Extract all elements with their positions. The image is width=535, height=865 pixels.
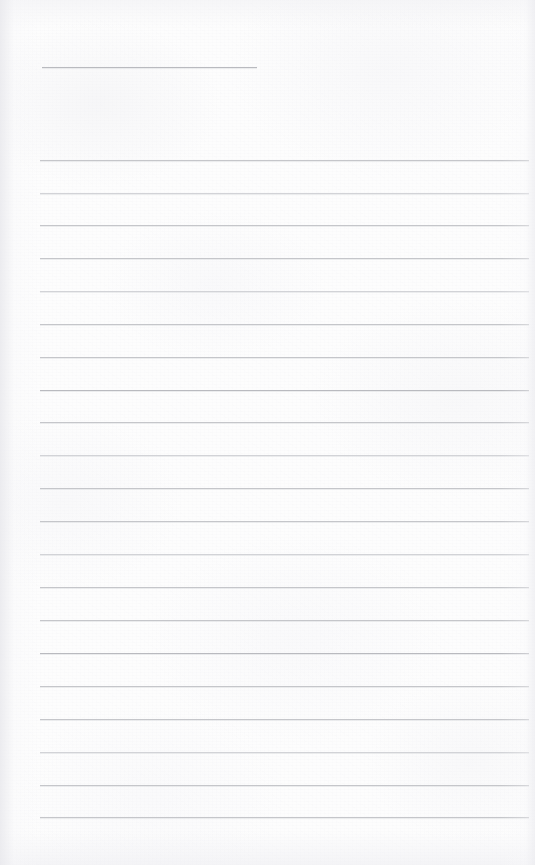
ruled-line-12	[40, 521, 529, 522]
paper-grain-overlay	[0, 0, 535, 865]
ruled-line-6	[40, 324, 529, 325]
ruled-line-17	[40, 686, 529, 687]
ruled-line-10	[40, 455, 529, 456]
ruled-line-21	[40, 817, 529, 818]
ruled-line-19	[40, 752, 529, 753]
page-edge-vignette	[0, 0, 535, 865]
ruled-line-14	[40, 587, 529, 588]
ruled-line-20	[40, 785, 529, 786]
ruled-line-18	[40, 719, 529, 720]
ruled-line-15	[40, 620, 529, 621]
notepad-page	[0, 0, 535, 865]
ruled-line-4	[40, 258, 529, 259]
ruled-line-3	[40, 225, 529, 226]
ruled-line-11	[40, 488, 529, 489]
ruled-line-13	[40, 554, 529, 555]
ruled-line-16	[40, 653, 529, 654]
ruled-line-2	[40, 193, 529, 194]
title-rule	[42, 67, 257, 68]
ruled-line-8	[40, 390, 529, 391]
ruled-line-7	[40, 357, 529, 358]
ruled-line-5	[40, 291, 529, 292]
ruled-line-1	[40, 160, 529, 161]
ruled-line-9	[40, 422, 529, 423]
